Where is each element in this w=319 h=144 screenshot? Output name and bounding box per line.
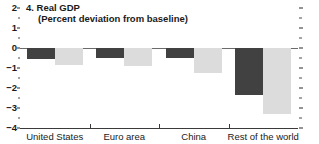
- x-axis-line: [20, 128, 298, 129]
- y-axis-right-minor-tick-mark: [299, 18, 302, 19]
- y-axis-tick-label: −3: [3, 103, 17, 113]
- y-axis-right-minor-tick-mark: [299, 78, 302, 79]
- x-axis-category-label: China: [181, 131, 206, 142]
- y-axis-right-tick-mark: [299, 8, 303, 9]
- y-axis-right-tick-mark: [299, 108, 303, 109]
- y-axis-minor-tick-mark: [18, 98, 20, 99]
- y-axis-minor-tick-mark: [18, 58, 20, 59]
- y-axis-minor-tick-mark: [18, 38, 20, 39]
- x-axis-category-separator: [159, 124, 160, 128]
- x-axis-category-separator: [229, 124, 230, 128]
- x-axis-category-label: United States: [26, 131, 83, 142]
- bar-dark-2: [166, 48, 194, 58]
- y-axis-right-tick-mark: [299, 88, 303, 89]
- y-axis-minor-tick-mark: [18, 118, 20, 119]
- y-axis-tick-mark: [17, 48, 21, 49]
- y-axis-right-tick-mark: [299, 28, 303, 29]
- plot-area: 210−1−2−3−4: [20, 8, 298, 128]
- y-axis-tick-label: 1: [3, 23, 17, 33]
- y-axis-right-tick-mark: [299, 128, 303, 129]
- y-axis-right-minor-tick-mark: [299, 38, 302, 39]
- bar-dark-0: [27, 48, 55, 59]
- y-axis-minor-tick-mark: [18, 78, 20, 79]
- y-axis-tick-mark: [17, 108, 21, 109]
- y-axis-tick-label: 2: [3, 3, 17, 13]
- bar-light-1: [124, 48, 152, 66]
- y-axis-tick-label: 0: [3, 43, 17, 53]
- y-axis-right-tick-mark: [299, 48, 303, 49]
- y-axis-right-minor-tick-mark: [299, 98, 302, 99]
- chart-panel-real-gdp: 4. Real GDP (Percent deviation from base…: [0, 0, 319, 144]
- y-axis-tick-mark: [17, 128, 21, 129]
- y-axis-tick-mark: [17, 8, 21, 9]
- bar-dark-3: [235, 48, 263, 95]
- y-axis-tick-mark: [17, 68, 21, 69]
- y-axis-tick-mark: [17, 88, 21, 89]
- y-axis-tick-mark: [17, 28, 21, 29]
- y-axis-right-tick-mark: [299, 68, 303, 69]
- y-axis-tick-label: −2: [3, 83, 17, 93]
- bar-dark-1: [96, 48, 124, 58]
- y-axis-right-minor-tick-mark: [299, 58, 302, 59]
- x-axis-category-label: Euro area: [103, 131, 145, 142]
- bar-light-2: [194, 48, 222, 73]
- y-axis-right-minor-tick-mark: [299, 118, 302, 119]
- x-axis-category-label: Rest of the world: [228, 131, 299, 142]
- bar-light-3: [263, 48, 291, 114]
- bar-light-0: [55, 48, 83, 65]
- y-axis-minor-tick-mark: [18, 18, 20, 19]
- y-axis-tick-label: −1: [3, 63, 17, 73]
- y-axis-tick-label: −4: [3, 123, 17, 133]
- x-axis-category-separator: [90, 124, 91, 128]
